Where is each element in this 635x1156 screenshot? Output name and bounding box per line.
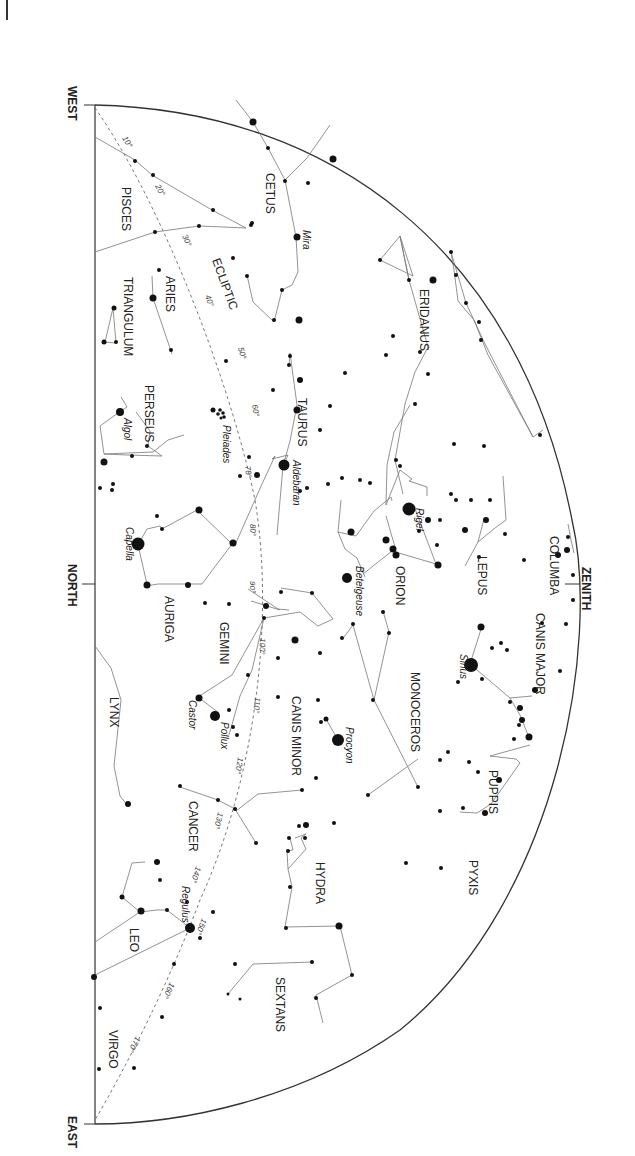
label-auriga: AURIGA: [162, 596, 176, 642]
constellation-labels: CETUS PISCES ARIES TRIANGULUM ERIDANUS P…: [106, 173, 561, 1069]
star-regulus: [185, 923, 195, 933]
label-aldebaran: Aldebaran: [291, 459, 302, 506]
label-algol: Algol: [122, 417, 133, 441]
star-labels: Mira Algol Pleiades Aldebaran Rigel Cape…: [122, 230, 469, 923]
svg-text:110°: 110°: [252, 697, 262, 714]
label-monoceros: MONOCEROS: [408, 672, 422, 752]
label-perseus: PERSEUS: [142, 385, 156, 442]
ecliptic-line: [95, 108, 263, 1120]
label-pyxis: PYXIS: [466, 860, 480, 895]
svg-text:170°: 170°: [126, 1035, 142, 1055]
chart-frame: [82, 105, 580, 1124]
north-label: NORTH: [65, 564, 79, 607]
star-pollux: [210, 711, 220, 721]
label-castor: Castor: [187, 700, 198, 730]
label-eridanus: ERIDANUS: [417, 289, 431, 351]
label-rigel: Rigel: [414, 508, 425, 532]
svg-text:50°: 50°: [236, 346, 248, 361]
label-lynx: LYNX: [107, 697, 121, 727]
label-canis-minor: CANIS MINOR: [289, 696, 303, 776]
svg-text:120°: 120°: [233, 757, 245, 776]
label-sirius: Sirius: [458, 654, 469, 679]
constellation-lines: [95, 100, 574, 1023]
label-lepus: LEPUS: [475, 556, 489, 595]
svg-text:160°: 160°: [161, 981, 176, 1001]
label-canis-major: CANIS MAJOR: [533, 613, 547, 695]
label-betelgeuse: Betelgeuse: [354, 566, 365, 616]
zenith-label: ZENITH: [579, 567, 593, 610]
star-chart: WEST NORTH EAST ZENITH ECLIPTIC 10° 20° …: [0, 0, 635, 1156]
label-regulus: Regulus: [180, 886, 191, 923]
east-label: EAST: [65, 1116, 79, 1149]
svg-text:40°: 40°: [203, 294, 216, 309]
svg-text:150°: 150°: [194, 917, 209, 936]
star-aldebaran: [279, 460, 290, 471]
svg-text:10°: 10°: [120, 135, 134, 151]
label-taurus: TAURUS: [295, 398, 309, 446]
svg-text:70°: 70°: [243, 465, 253, 479]
label-mira: Mira: [301, 230, 312, 250]
star-procyon: [332, 734, 344, 746]
label-cancer: CANCER: [186, 801, 200, 852]
label-procyon: Procyon: [344, 727, 355, 764]
star-betelgeuse: [342, 573, 352, 583]
label-gemini: GEMINI: [217, 622, 231, 665]
label-sextans: SEXTANS: [273, 977, 287, 1032]
label-puppis: PUPPIS: [486, 770, 500, 814]
label-leo: LEO: [127, 928, 141, 952]
label-capella: Capella: [124, 527, 135, 561]
svg-text:20°: 20°: [153, 182, 167, 198]
label-cetus: CETUS: [263, 173, 277, 214]
west-label: WEST: [65, 86, 79, 121]
label-columba: COLUMBA: [547, 536, 561, 595]
stars: [91, 119, 575, 1072]
label-virgo: VIRGO: [106, 1030, 120, 1069]
svg-text:130°: 130°: [212, 812, 225, 831]
svg-text:80°: 80°: [248, 524, 257, 537]
direction-labels: WEST NORTH EAST ZENITH: [65, 86, 593, 1149]
svg-text:60°: 60°: [250, 404, 261, 418]
label-pisces: PISCES: [119, 187, 133, 231]
svg-text:30°: 30°: [180, 233, 193, 248]
label-pollux: Pollux: [219, 722, 230, 750]
label-aries: ARIES: [163, 276, 177, 312]
label-triangulum: TRIANGULUM: [121, 277, 135, 356]
label-orion: ORION: [393, 566, 407, 605]
label-hydra: HYDRA: [313, 862, 327, 904]
label-pleiades: Pleiades: [221, 425, 232, 463]
svg-text:140°: 140°: [189, 865, 203, 884]
